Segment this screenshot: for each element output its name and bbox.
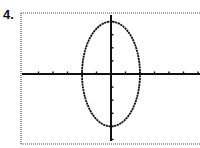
y-axis (111, 15, 114, 141)
calculator-graph (0, 0, 200, 148)
